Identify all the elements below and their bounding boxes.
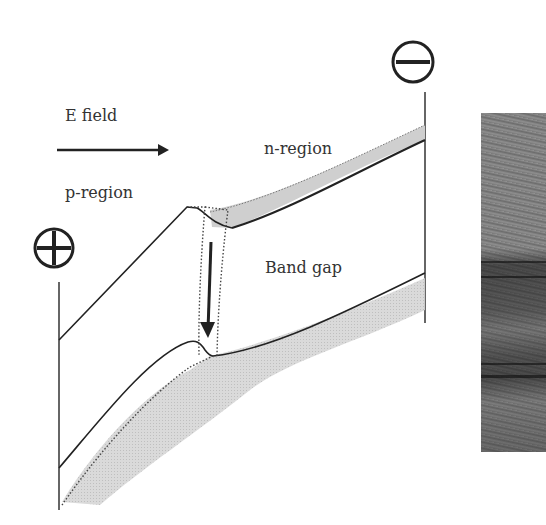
plus-in-circle-icon [35, 229, 73, 267]
e-field-arrow-icon [57, 144, 169, 156]
pn-junction-band-diagram: E field p-region n-region Band gap [0, 0, 546, 525]
p-region-label: p-region [65, 183, 133, 202]
e-field-label: E field [65, 106, 117, 125]
conduction-band-edge [59, 207, 232, 340]
minus-in-circle-icon [393, 42, 433, 82]
valence-band-shading [62, 278, 425, 505]
rock-outcrop-photo [481, 113, 546, 452]
n-region-label: n-region [264, 139, 332, 158]
band-gap-label: Band gap [265, 258, 342, 277]
